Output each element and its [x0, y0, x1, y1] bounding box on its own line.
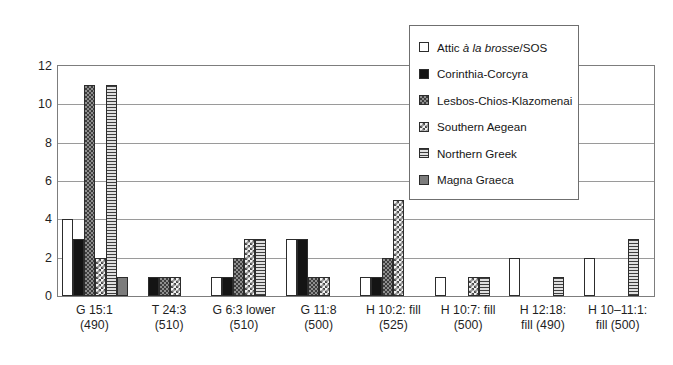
legend-item-lesbos: Lesbos-Chios-Klazomenai: [419, 87, 578, 114]
legend-swatch-lesbos-icon: [419, 95, 429, 105]
legend-label-corinthia: Corinthia-Corcyra: [437, 67, 528, 80]
x-axis-category-labels: G 15:1(490)T 24:3(510)G 6:3 lower(510)G …: [57, 303, 655, 359]
legend-label-lesbos: Lesbos-Chios-Klazomenai: [437, 94, 572, 107]
bar-magna: [117, 277, 128, 296]
bar-lesbos: [233, 258, 244, 296]
y-tick-12: 12: [22, 60, 52, 72]
x-category-line2: fill (490): [507, 318, 580, 333]
chart-legend: Attic à la brosse/SOSCorinthia-CorcyraLe…: [409, 25, 579, 200]
x-category-line2: (510): [208, 318, 281, 333]
bar-lesbos: [382, 258, 393, 296]
x-category-label-2: G 6:3 lower(510): [207, 303, 282, 359]
bar-group: [58, 66, 133, 296]
bar-corinthia: [297, 239, 308, 297]
bar-northern: [479, 277, 490, 296]
x-category-line1: G 11:8: [282, 303, 355, 318]
x-category-line2: (500): [282, 318, 355, 333]
bar-attic: [211, 277, 222, 296]
bar-group-bars: [207, 66, 282, 296]
x-category-line2: fill (500): [581, 318, 654, 333]
bar-northern: [106, 85, 117, 296]
x-category-line1: T 24:3: [133, 303, 206, 318]
bar-group: [580, 66, 655, 296]
legend-item-magna: Magna Graeca: [419, 167, 578, 194]
x-category-line1: H 10:2: fill: [357, 303, 430, 318]
bar-group-bars: [282, 66, 357, 296]
bar-corinthia: [371, 277, 382, 296]
x-category-label-5: H 10:7: fill(500): [431, 303, 506, 359]
legend-swatch-corinthia-icon: [419, 69, 429, 79]
bar-aegean: [319, 277, 330, 296]
bar-group-bars: [133, 66, 208, 296]
bar-aegean: [393, 200, 404, 296]
y-tick-8: 8: [22, 137, 52, 149]
x-category-label-3: G 11:8(500): [281, 303, 356, 359]
legend-item-attic: Attic à la brosse/SOS: [419, 34, 578, 61]
bar-northern: [553, 277, 564, 296]
x-category-label-7: H 10–11:1:fill (500): [580, 303, 655, 359]
bar-attic: [360, 277, 371, 296]
bar-attic: [435, 277, 446, 296]
x-category-label-1: T 24:3(510): [132, 303, 207, 359]
legend-swatch-northern-icon: [419, 148, 429, 158]
x-category-label-4: H 10:2: fill(525): [356, 303, 431, 359]
x-category-line1: G 15:1: [58, 303, 131, 318]
bar-group: [133, 66, 208, 296]
y-tick-0: 0: [22, 290, 52, 302]
x-category-line2: (525): [357, 318, 430, 333]
bar-lesbos: [308, 277, 319, 296]
bar-aegean: [468, 277, 479, 296]
bar-lesbos: [159, 277, 170, 296]
bar-northern: [628, 239, 639, 297]
bar-corinthia: [148, 277, 159, 296]
bar-aegean: [170, 277, 181, 296]
legend-label-northern: Northern Greek: [437, 147, 517, 160]
x-category-line1: H 10:7: fill: [432, 303, 505, 318]
bar-attic: [62, 219, 73, 296]
legend-label-attic: Attic à la brosse/SOS: [437, 41, 547, 54]
legend-item-aegean: Southern Aegean: [419, 114, 578, 141]
bar-lesbos: [84, 85, 95, 296]
bar-chart-figure: 024681012 G 15:1(490)T 24:3(510)G 6:3 lo…: [0, 0, 673, 365]
y-tick-2: 2: [22, 252, 52, 264]
legend-swatch-attic-icon: [419, 42, 429, 52]
legend-label-aegean: Southern Aegean: [437, 120, 527, 133]
bar-attic: [286, 239, 297, 297]
bar-group-bars: [580, 66, 655, 296]
legend-swatch-magna-icon: [419, 175, 429, 185]
y-tick-10: 10: [22, 98, 52, 110]
bar-group: [282, 66, 357, 296]
y-tick-4: 4: [22, 213, 52, 225]
x-category-label-6: H 12:18:fill (490): [506, 303, 581, 359]
x-category-line1: H 10–11:1:: [581, 303, 654, 318]
bar-aegean: [95, 258, 106, 296]
y-axis-tick-labels: 024681012: [12, 0, 52, 365]
x-category-line1: G 6:3 lower: [208, 303, 281, 318]
legend-label-magna: Magna Graeca: [437, 173, 514, 186]
bar-corinthia: [222, 277, 233, 296]
bar-northern: [255, 239, 266, 297]
bar-attic: [509, 258, 520, 296]
bar-group-bars: [58, 66, 133, 296]
bar-group: [207, 66, 282, 296]
bar-attic: [584, 258, 595, 296]
legend-swatch-aegean-icon: [419, 122, 429, 132]
x-category-line2: (500): [432, 318, 505, 333]
bar-aegean: [244, 239, 255, 297]
x-category-line2: (490): [58, 318, 131, 333]
x-category-line1: H 12:18:: [507, 303, 580, 318]
y-tick-6: 6: [22, 175, 52, 187]
legend-item-northern: Northern Greek: [419, 140, 578, 167]
legend-item-corinthia: Corinthia-Corcyra: [419, 61, 578, 88]
x-category-label-0: G 15:1(490): [57, 303, 132, 359]
x-category-line2: (510): [133, 318, 206, 333]
bar-corinthia: [73, 239, 84, 297]
